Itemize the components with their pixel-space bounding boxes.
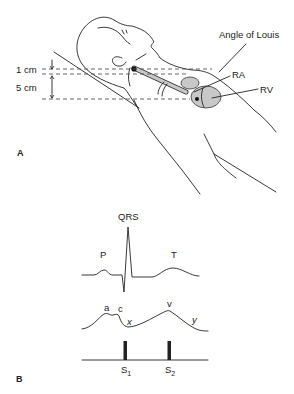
arm-upper xyxy=(204,134,276,192)
rv-label: RV xyxy=(260,84,274,95)
s1-label-sub: 1 xyxy=(127,370,131,377)
y-descent-label: y xyxy=(191,314,198,325)
jvp-diagram: 1 cm 5 cm Angle of Louis RA RV A QRS P T… xyxy=(0,0,294,394)
ra-label: RA xyxy=(232,69,246,80)
measure-5cm-label: 5 cm xyxy=(16,82,37,93)
measure-1cm-label: 1 cm xyxy=(16,64,37,75)
qrs-label: QRS xyxy=(118,211,139,222)
x-descent-label: x xyxy=(126,316,133,327)
jaw-line xyxy=(136,54,146,60)
bed-incline-line xyxy=(54,52,139,108)
panel-b-label: B xyxy=(16,374,23,384)
ear xyxy=(112,57,126,66)
c-wave-label: c xyxy=(118,303,123,314)
arm-lower xyxy=(214,154,236,178)
panel-a-label: A xyxy=(17,148,24,158)
torso-outline xyxy=(134,100,200,194)
neck-front xyxy=(129,68,131,86)
jugular-vein-fill xyxy=(134,68,186,92)
panel-a-illustration xyxy=(42,17,276,194)
v-wave-label: v xyxy=(167,298,172,309)
p-wave-label: P xyxy=(100,249,106,260)
right-atrium xyxy=(181,77,199,89)
eye xyxy=(122,30,127,34)
t-wave-label: T xyxy=(171,249,177,260)
hair-line xyxy=(98,27,130,44)
a-wave-label: a xyxy=(104,302,110,313)
s2-label-sub: 2 xyxy=(171,370,175,377)
angle-of-louis-leader xyxy=(219,44,246,72)
s2-marker xyxy=(168,341,172,360)
s1-marker xyxy=(124,341,128,360)
ra-marker-dot xyxy=(195,97,199,101)
panel-b-waveforms xyxy=(82,227,208,360)
jvp-trace xyxy=(82,311,208,331)
angle-of-louis-label: Angle of Louis xyxy=(219,29,279,40)
s1-label: S1 xyxy=(121,364,131,377)
s2-label: S2 xyxy=(165,364,175,377)
